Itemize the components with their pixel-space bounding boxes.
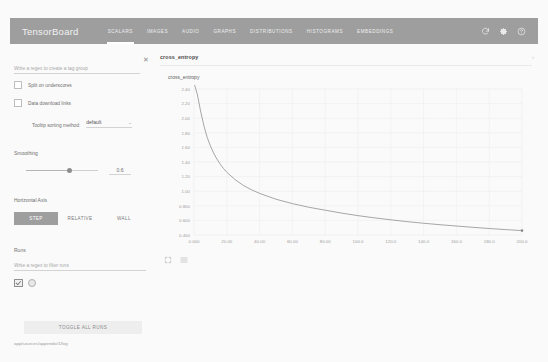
clear-tag-filter-button[interactable]: ✕ — [141, 55, 150, 64]
chevron-right-icon[interactable]: › — [532, 54, 534, 60]
svg-text:2.40: 2.40 — [181, 87, 190, 92]
tab-audio-label: AUDIO — [182, 29, 199, 34]
tooltip-sorting-select[interactable]: default ⌄ — [86, 119, 132, 128]
tab-distributions-label: DISTRIBUTIONS — [250, 29, 293, 34]
header-actions — [481, 27, 526, 36]
smoothing-label: Smoothing — [14, 150, 154, 156]
svg-text:80.00: 80.00 — [320, 239, 332, 244]
chevron-down-icon: ⌄ — [128, 119, 132, 125]
tensorboard-app: TensorBoard SCALARS IMAGES AUDIO GRAPHS … — [0, 0, 548, 362]
run-checkbox[interactable] — [14, 279, 23, 288]
split-on-underscores-label: Split on underscores — [28, 83, 72, 88]
tab-scalars[interactable]: SCALARS — [101, 18, 140, 44]
app-brand: TensorBoard — [22, 26, 79, 37]
horizontal-axis-label: Horizontal Axis — [14, 197, 154, 203]
svg-text:1.60: 1.60 — [181, 145, 190, 150]
svg-text:1.20: 1.20 — [181, 174, 190, 179]
tab-graphs-label: GRAPHS — [213, 29, 236, 34]
svg-text:60.00: 60.00 — [287, 239, 299, 244]
tab-images-label: IMAGES — [147, 29, 168, 34]
tab-images[interactable]: IMAGES — [140, 18, 175, 44]
run-list-item[interactable] — [14, 279, 154, 288]
tab-graphs[interactable]: GRAPHS — [206, 18, 243, 44]
data-download-links-label: Data download links — [28, 101, 71, 106]
section-title: cross_entropy — [160, 54, 534, 60]
expand-icon[interactable] — [164, 256, 172, 264]
svg-text:160.0: 160.0 — [451, 239, 463, 244]
refresh-icon[interactable] — [481, 27, 490, 36]
tab-embeddings[interactable]: EMBEDDINGS — [350, 18, 400, 44]
main-nav-tabs: SCALARS IMAGES AUDIO GRAPHS DISTRIBUTION… — [101, 18, 401, 44]
tab-embeddings-label: EMBEDDINGS — [357, 29, 393, 34]
section-divider — [160, 65, 532, 66]
svg-text:20.00: 20.00 — [221, 239, 233, 244]
sidebar: ✕ Split on underscores Data download lin… — [14, 56, 154, 287]
smoothing-row: 0.6 — [14, 167, 154, 175]
gear-icon[interactable] — [499, 27, 508, 36]
runs-filter-input[interactable] — [14, 263, 146, 271]
tab-histograms[interactable]: HISTOGRAMS — [300, 18, 350, 44]
tag-filter-row: ✕ — [14, 56, 150, 71]
svg-text:100.0: 100.0 — [353, 239, 365, 244]
line-chart: 2.402.202.001.801.601.401.201.000.8000.6… — [160, 85, 528, 253]
smoothing-slider-fill — [26, 170, 69, 171]
svg-text:1.00: 1.00 — [181, 189, 190, 194]
scalar-card: cross_entropy 2.402.202.001.801.601.401.… — [160, 74, 532, 264]
svg-text:1.80: 1.80 — [181, 130, 190, 135]
main-content: cross_entropy › cross_entropy 2.402.202.… — [160, 54, 534, 264]
chart-actions — [164, 256, 532, 264]
svg-text:1.40: 1.40 — [181, 160, 190, 165]
smoothing-slider[interactable] — [26, 170, 98, 171]
data-table-icon[interactable] — [180, 256, 188, 264]
data-download-links-checkbox[interactable] — [14, 99, 22, 107]
help-icon[interactable] — [517, 27, 526, 36]
split-on-underscores-checkbox[interactable] — [14, 81, 22, 89]
tab-histograms-label: HISTOGRAMS — [307, 29, 343, 34]
logdir-path: app/sources/appendix/1/log — [14, 341, 68, 346]
chart-plot-area[interactable]: 2.402.202.001.801.601.401.201.000.8000.6… — [160, 85, 528, 253]
svg-text:40.00: 40.00 — [254, 239, 266, 244]
svg-text:140.0: 140.0 — [418, 239, 430, 244]
tag-filter-input[interactable] — [14, 66, 140, 74]
split-on-underscores-row[interactable]: Split on underscores — [14, 81, 154, 89]
svg-text:120.0: 120.0 — [385, 239, 397, 244]
svg-text:0.000: 0.000 — [189, 239, 201, 244]
svg-text:0.400: 0.400 — [179, 233, 191, 238]
run-color-swatch — [28, 279, 36, 287]
tooltip-sorting-row: Tooltip sorting method: default ⌄ — [14, 119, 154, 128]
runs-label: Runs — [14, 247, 154, 253]
chart-title: cross_entropy — [168, 74, 532, 80]
horizontal-axis-relative[interactable]: RELATIVE — [58, 212, 102, 225]
svg-text:180.0: 180.0 — [484, 239, 496, 244]
tab-scalars-label: SCALARS — [108, 29, 133, 34]
tab-audio[interactable]: AUDIO — [175, 18, 206, 44]
smoothing-value[interactable]: 0.6 — [109, 167, 131, 175]
app-header: TensorBoard SCALARS IMAGES AUDIO GRAPHS … — [10, 18, 538, 44]
horizontal-axis-options: STEP RELATIVE WALL — [14, 212, 154, 225]
toggle-all-runs-button[interactable]: TOGGLE ALL RUNS — [24, 321, 142, 334]
horizontal-axis-wall[interactable]: WALL — [102, 212, 146, 225]
svg-text:0.600: 0.600 — [179, 218, 191, 223]
svg-text:200.0: 200.0 — [517, 239, 529, 244]
horizontal-axis-step[interactable]: STEP — [14, 212, 58, 225]
svg-text:2.20: 2.20 — [181, 101, 190, 106]
data-download-links-row[interactable]: Data download links — [14, 99, 154, 107]
tooltip-sorting-value: default — [86, 119, 101, 125]
svg-text:0.800: 0.800 — [179, 203, 191, 208]
smoothing-slider-knob[interactable] — [67, 168, 72, 173]
svg-text:2.00: 2.00 — [181, 116, 190, 121]
tooltip-sorting-label: Tooltip sorting method: — [32, 123, 80, 128]
tab-distributions[interactable]: DISTRIBUTIONS — [243, 18, 300, 44]
